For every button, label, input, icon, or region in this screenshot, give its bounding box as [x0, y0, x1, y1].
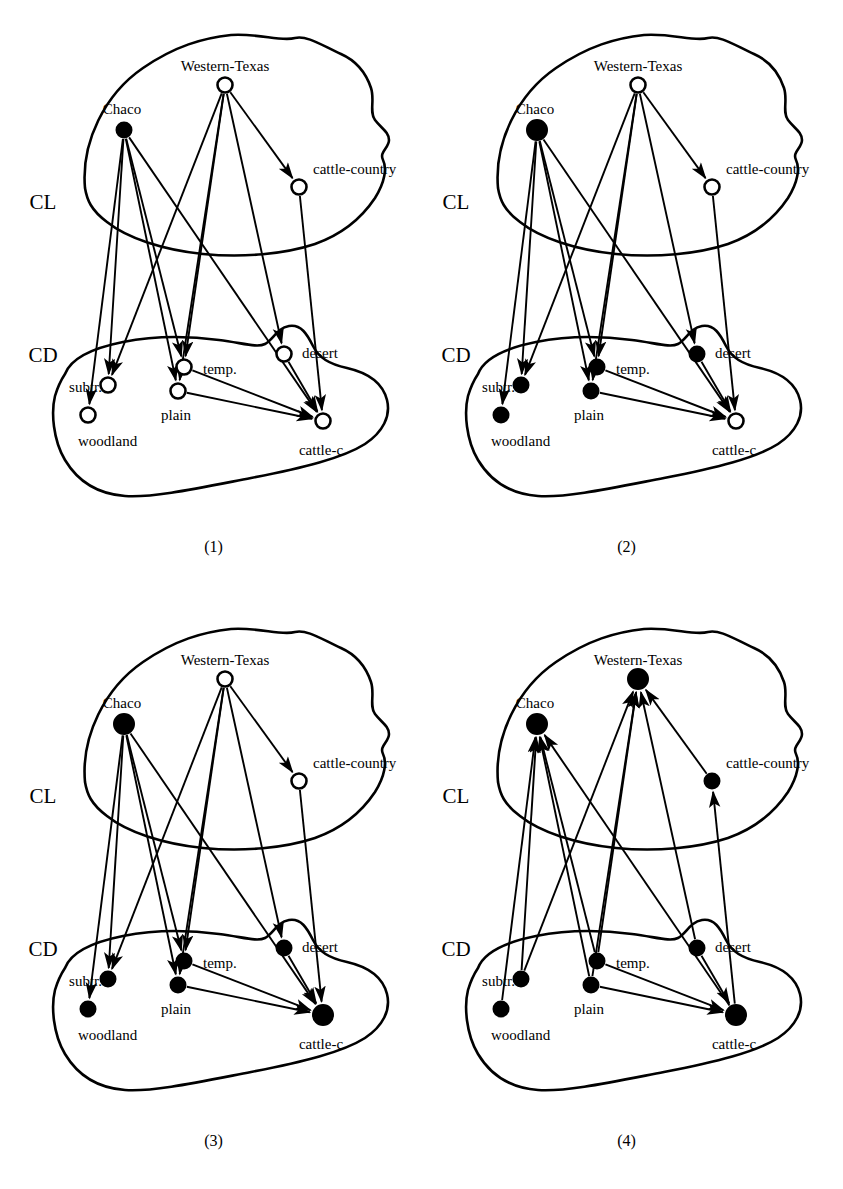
- node-label-cattle-country: cattle-country: [726, 755, 810, 771]
- diagram-panel-2: CLCDWestern-TexasChacocattle-countrywood…: [420, 2, 833, 597]
- node-western-texas[interactable]: [628, 669, 648, 689]
- edge-temp-to-cattle_c: [192, 370, 312, 417]
- node-western-texas[interactable]: [631, 78, 646, 93]
- node-desert[interactable]: [690, 941, 705, 956]
- node-plain[interactable]: [171, 384, 186, 399]
- node-subtr[interactable]: [514, 972, 529, 987]
- region-label-cl: CL: [30, 784, 57, 808]
- node-label-cattle-country: cattle-country: [313, 161, 397, 177]
- node-label-plain: plain: [161, 1001, 191, 1017]
- node-temp[interactable]: [177, 360, 192, 375]
- node-label-temp: temp.: [203, 361, 237, 377]
- node-cattle-country[interactable]: [705, 774, 720, 789]
- region-label-cd: CD: [28, 343, 57, 367]
- node-label-western-texas: Western-Texas: [181, 58, 270, 74]
- node-plain[interactable]: [171, 978, 186, 993]
- edge-western_texas-to-temp: [599, 94, 637, 356]
- node-label-desert: desert: [302, 939, 339, 955]
- node-desert[interactable]: [277, 941, 292, 956]
- node-temp[interactable]: [590, 360, 605, 375]
- edge-chaco-to-plain: [539, 141, 589, 380]
- node-chaco[interactable]: [527, 120, 547, 140]
- node-cattle-c[interactable]: [316, 414, 331, 429]
- node-label-woodland: woodland: [491, 1027, 551, 1043]
- node-temp[interactable]: [590, 954, 605, 969]
- node-cattle-country[interactable]: [705, 180, 720, 195]
- edge-chaco-to-temp: [126, 139, 181, 357]
- edge-desert-to-cattle_c: [289, 956, 317, 1004]
- node-label-western-texas: Western-Texas: [594, 58, 683, 74]
- edge-chaco-to-plain: [126, 735, 176, 974]
- edge-chaco-to-subtr: [109, 736, 124, 969]
- edge-cattle_country-to-cattle_c: [300, 790, 322, 1002]
- edge-temp-to-cattle_c: [605, 370, 725, 417]
- diagram-panel-3: CLCDWestern-TexasChacocattle-countrywood…: [7, 596, 420, 1189]
- node-label-desert: desert: [715, 345, 752, 361]
- node-label-cattle-c: cattle-c: [712, 442, 756, 458]
- node-woodland[interactable]: [494, 1002, 509, 1017]
- node-cattle-country[interactable]: [292, 180, 307, 195]
- node-plain[interactable]: [584, 384, 599, 399]
- region-label-cl: CL: [443, 784, 470, 808]
- node-subtr[interactable]: [101, 972, 116, 987]
- node-label-subtr: subtr.: [69, 379, 102, 395]
- node-chaco[interactable]: [114, 714, 134, 734]
- node-label-woodland: woodland: [491, 433, 551, 449]
- edge-western_texas-to-cattle_country: [646, 690, 707, 774]
- node-western-texas[interactable]: [218, 78, 233, 93]
- edge-plain-to-cattle_c: [187, 987, 310, 1013]
- edge-cattle_country-to-cattle_c: [713, 792, 735, 1004]
- edge-chaco-to-subtr: [522, 142, 537, 375]
- node-label-subtr: subtr.: [482, 379, 515, 395]
- node-cattle-c[interactable]: [313, 1005, 333, 1025]
- node-woodland[interactable]: [81, 1002, 96, 1017]
- edge-plain-to-cattle_c: [600, 393, 725, 419]
- edge-chaco-to-plain: [126, 139, 176, 380]
- edge-chaco-to-subtr: [109, 139, 124, 374]
- panel-caption-1: (1): [7, 538, 420, 556]
- node-subtr[interactable]: [101, 378, 116, 393]
- node-western-texas[interactable]: [218, 672, 233, 687]
- node-label-cattle-country: cattle-country: [726, 161, 810, 177]
- node-cattle-c[interactable]: [726, 1005, 746, 1025]
- edge-western_texas-to-temp: [186, 94, 224, 356]
- edge-western_texas-to-desert: [640, 94, 695, 343]
- region-label-cd: CD: [441, 937, 470, 961]
- edge-chaco-to-woodland: [89, 139, 123, 404]
- node-label-desert: desert: [715, 939, 752, 955]
- node-temp[interactable]: [177, 954, 192, 969]
- edge-western_texas-to-cattle_country: [230, 686, 292, 772]
- node-cattle-country[interactable]: [292, 774, 307, 789]
- region-label-cl: CL: [443, 190, 470, 214]
- edge-western_texas-to-desert: [227, 94, 282, 343]
- edge-desert-to-cattle_c: [702, 956, 730, 1004]
- edge-western_texas-to-cattle_country: [643, 92, 705, 178]
- edge-desert-to-cattle_c: [289, 362, 318, 412]
- node-label-plain: plain: [574, 1001, 604, 1017]
- node-plain[interactable]: [584, 978, 599, 993]
- node-cattle-c[interactable]: [729, 414, 744, 429]
- region-label-cl: CL: [30, 190, 57, 214]
- node-label-temp: temp.: [203, 955, 237, 971]
- node-label-plain: plain: [574, 407, 604, 423]
- node-desert[interactable]: [690, 347, 705, 362]
- node-label-desert: desert: [302, 345, 339, 361]
- node-label-chaco: Chaco: [516, 101, 554, 117]
- edge-desert-to-cattle_c: [702, 362, 731, 412]
- node-subtr[interactable]: [514, 378, 529, 393]
- node-desert[interactable]: [277, 347, 292, 362]
- node-woodland[interactable]: [81, 408, 96, 423]
- edge-cattle_country-to-cattle_c: [300, 196, 322, 410]
- node-label-subtr: subtr.: [482, 973, 515, 989]
- region-label-cd: CD: [441, 343, 470, 367]
- edge-plain-to-cattle_c: [187, 393, 312, 419]
- panel-caption-2: (2): [420, 538, 833, 556]
- node-chaco[interactable]: [527, 714, 547, 734]
- edge-western_texas-to-desert: [227, 688, 282, 938]
- edge-chaco-to-plain: [540, 737, 590, 976]
- node-label-western-texas: Western-Texas: [181, 652, 270, 668]
- node-label-cattle-c: cattle-c: [299, 1036, 343, 1052]
- node-woodland[interactable]: [494, 408, 509, 423]
- node-chaco[interactable]: [117, 123, 132, 138]
- edge-plain-to-cattle_c: [600, 987, 723, 1013]
